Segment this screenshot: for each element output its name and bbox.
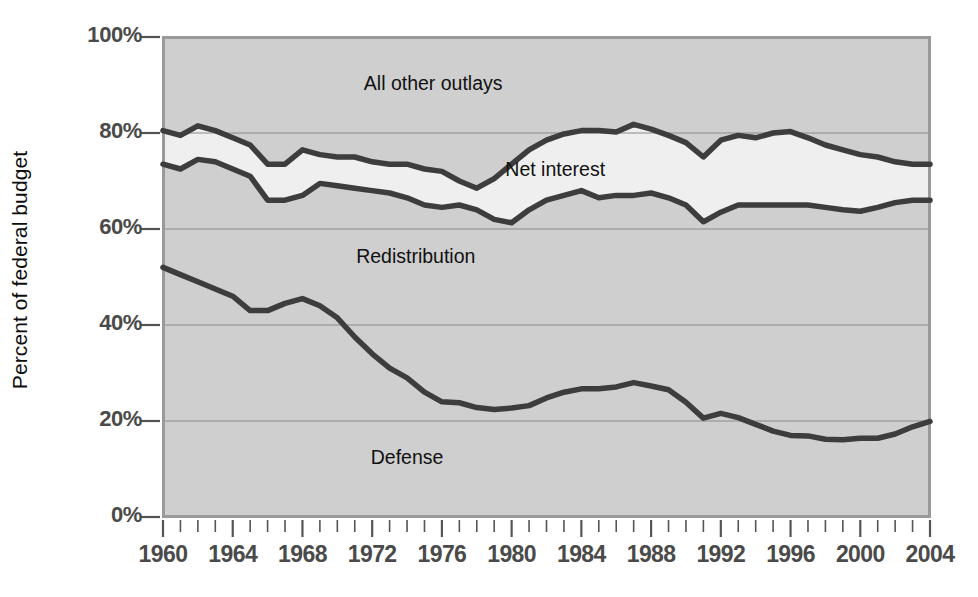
y-axis-tick-labels: 0%20%40%60%80%100% [38, 0, 142, 560]
chart-container: Percent of federal budget 0%20%40%60%80%… [0, 0, 978, 597]
y-axis-tick-label: 100% [87, 22, 142, 48]
series-annotation-net-interest: Net interest [505, 158, 605, 181]
y-axis-title: Percent of federal budget [8, 151, 32, 389]
plot-background [163, 37, 930, 517]
y-axis-tick-label: 20% [99, 406, 142, 432]
x-axis-tick-label: 2004 [885, 541, 975, 568]
y-axis-title-wrap: Percent of federal budget [0, 0, 40, 540]
y-axis-tick-label: 80% [99, 118, 142, 144]
series-annotation-all-other-outlays: All other outlays [364, 72, 503, 95]
y-axis-tick-label: 40% [99, 310, 142, 336]
y-axis-tick-label: 60% [99, 214, 142, 240]
series-annotation-redistribution: Redistribution [356, 245, 475, 268]
y-axis-tick-label: 0% [111, 502, 142, 528]
series-annotation-defense: Defense [371, 446, 444, 469]
